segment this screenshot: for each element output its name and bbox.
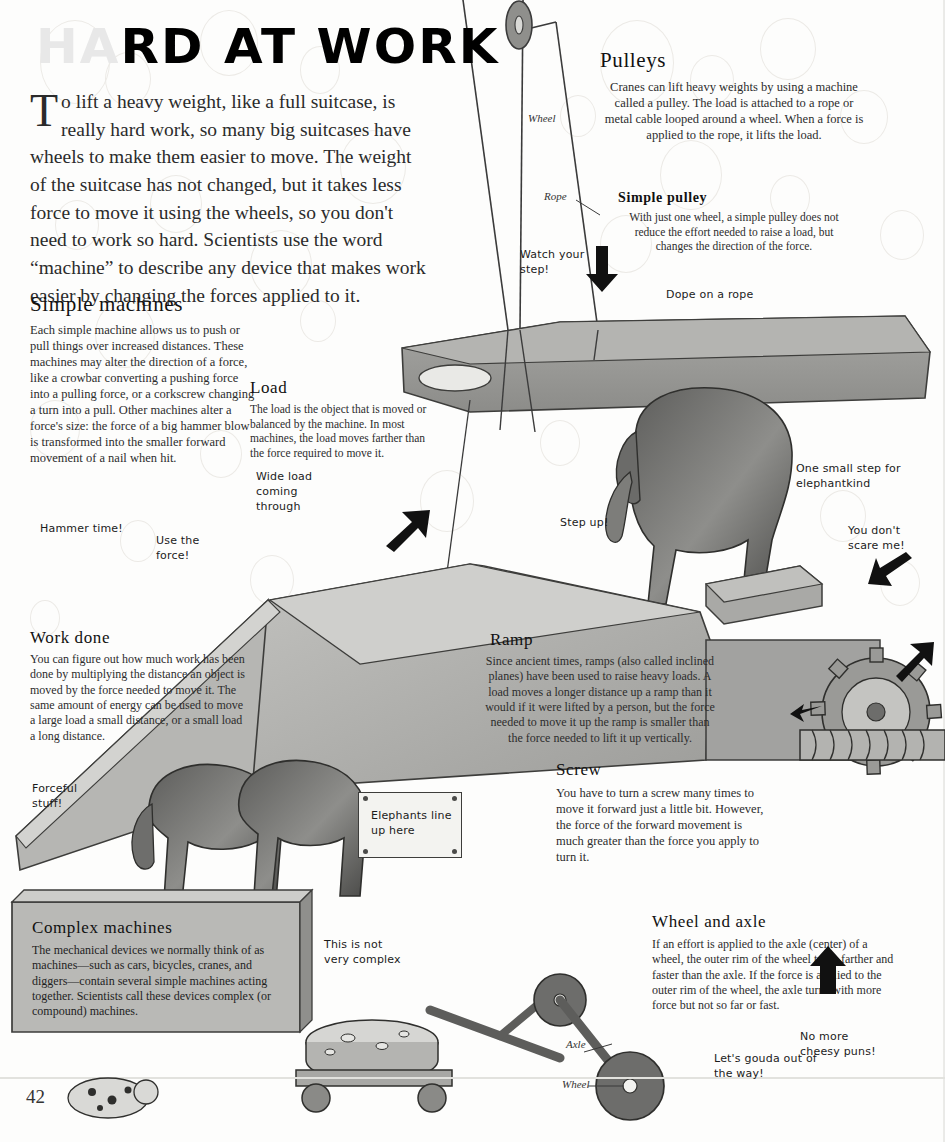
section-work-done: Work done You can figure out how much wo… (30, 628, 246, 744)
heading-simple-machines: Simple machines (30, 292, 258, 317)
intro-text: o lift a heavy weight, like a full suitc… (30, 91, 426, 306)
section-ramp: Ramp Since ancient times, ramps (also ca… (490, 630, 722, 746)
arrow-up-right-gear (892, 640, 936, 684)
section-simple-pulley: Simple pulley With just one wheel, a sim… (618, 190, 850, 254)
section-screw: Screw You have to turn a screw many time… (556, 760, 768, 865)
heading-screw: Screw (556, 760, 768, 780)
sign-elephants-line-up: Elephants line up here (358, 792, 462, 858)
label-wheel-bottom: Wheel (562, 1078, 589, 1090)
page-number: 42 (26, 1086, 45, 1108)
section-simple-machines: Simple machines Each simple machine allo… (30, 292, 258, 466)
screw-icon (452, 796, 457, 801)
heading-simple-pulley: Simple pulley (618, 190, 850, 206)
caption-wide-load: Wide load coming through (256, 470, 342, 515)
body-simple-machines: Each simple machine allows us to push or… (30, 322, 258, 466)
caption-hammer-time: Hammer time! (40, 522, 126, 537)
section-wheel-and-axle: Wheel and axle If an effort is applied t… (652, 912, 900, 1014)
arrow-up-right-ramp (382, 508, 434, 554)
caption-use-the-force: Use the force! (156, 534, 218, 564)
intro-dropcap: T (30, 88, 61, 130)
heading-complex-machines: Complex machines (32, 918, 288, 938)
heading-load: Load (250, 378, 436, 398)
page-title: HARD AT WORK (36, 18, 499, 74)
caption-step-up: Step up! (560, 516, 620, 531)
arrow-left-mouse (866, 548, 916, 588)
caption-this-is-not-very-complex: This is not very complex (324, 938, 404, 968)
body-load: The load is the object that is moved or … (250, 402, 436, 461)
section-pulleys: Pulleys Cranes can lift heavy weights by… (600, 48, 868, 143)
caption-one-small-step: One small step for elephantkind (796, 462, 922, 492)
arrow-up-wheel-axle (808, 944, 850, 996)
caption-dope-on-a-rope: Dope on a rope (666, 288, 776, 303)
screw-icon (363, 796, 368, 801)
heading-pulleys: Pulleys (600, 48, 868, 73)
label-axle-bottom: Axle (566, 1038, 586, 1050)
page-title-faded: HA (36, 18, 121, 74)
section-complex-machines: Complex machines The mechanical devices … (32, 918, 288, 1020)
caption-forceful-stuff: Forceful stuff! (32, 782, 94, 812)
body-wheel-and-axle: If an effort is applied to the axle (cen… (652, 937, 900, 1014)
label-wheel-top: Wheel (528, 112, 555, 124)
body-ramp: Since ancient times, ramps (also called … (484, 654, 716, 746)
caption-no-more-cheesy-puns: No more cheesy puns! (800, 1030, 884, 1060)
arrow-down-pulley (584, 246, 620, 294)
sign-text: Elephants line up here (371, 809, 455, 839)
arrow-left-screw (790, 700, 824, 730)
screw-icon (452, 849, 457, 854)
intro-paragraph: To lift a heavy weight, like a full suit… (30, 88, 430, 310)
section-load: Load The load is the object that is move… (250, 378, 436, 461)
body-screw: You have to turn a screw many times to m… (556, 785, 768, 865)
heading-wheel-and-axle: Wheel and axle (652, 912, 900, 932)
page-canvas: HARD AT WORK To lift a heavy weight, lik… (0, 0, 945, 1142)
body-simple-pulley: With just one wheel, a simple pulley doe… (618, 210, 850, 254)
label-rope: Rope (544, 190, 567, 202)
screw-icon (363, 849, 368, 854)
body-complex-machines: The mechanical devices we normally think… (32, 943, 288, 1020)
body-pulleys: Cranes can lift heavy weights by using a… (600, 79, 868, 143)
body-work-done: You can figure out how much work has bee… (30, 652, 246, 744)
heading-ramp: Ramp (490, 630, 722, 650)
page-title-main: RD AT WORK (121, 18, 500, 74)
heading-work-done: Work done (30, 628, 246, 648)
